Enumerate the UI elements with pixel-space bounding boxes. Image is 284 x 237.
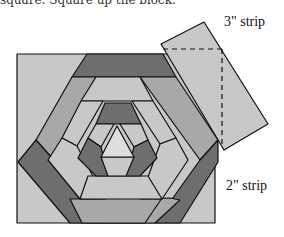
quilt-block-diagram	[0, 0, 284, 237]
ring2-bottom	[80, 176, 162, 199]
label-2in-strip: 2" strip	[226, 178, 267, 194]
label-3in-strip: 3" strip	[224, 14, 265, 30]
outer-bottom-band	[70, 198, 162, 223]
outer-top-strip	[72, 54, 176, 77]
